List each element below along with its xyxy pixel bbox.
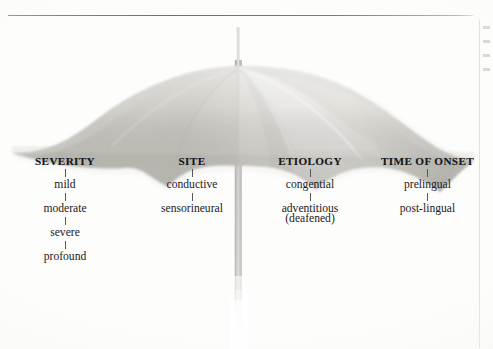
column-item-severity-mild: mild [0,178,130,191]
column-severity: SEVERITY mild moderate severe profound [0,155,130,263]
figure-page: SEVERITY mild moderate severe profound S… [0,0,493,349]
column-time-of-onset: TIME OF ONSET prelingual post-lingual [362,155,493,215]
column-item-onset-post-lingual: post-lingual [362,202,493,215]
column-item-onset-prelingual: prelingual [362,178,493,191]
column-item-site-conductive: conductive [128,178,256,191]
column-etiology: ETIOLOGY congential adventitious (deafen… [250,155,370,225]
column-item-etiology-deafened: (deafened) [250,212,370,225]
connector-tick [192,193,193,201]
connector-tick [65,241,66,249]
connector-tick [427,169,428,177]
connector-tick [65,217,66,225]
column-header-site: SITE [128,155,256,167]
column-item-severity-severe: severe [0,226,130,239]
connector-tick [427,193,428,201]
column-site: SITE conductive sensorineural [128,155,256,215]
connector-tick [310,193,311,201]
connector-tick [65,169,66,177]
connector-tick [65,193,66,201]
column-item-severity-profound: profound [0,250,130,263]
umbrella-ferrule [233,27,243,71]
column-header-time-of-onset: TIME OF ONSET [362,155,493,167]
column-item-severity-moderate: moderate [0,202,130,215]
column-item-etiology-congential: congential [250,178,370,191]
connector-tick [310,169,311,177]
column-header-etiology: ETIOLOGY [250,155,370,167]
connector-tick [192,169,193,177]
column-header-severity: SEVERITY [0,155,130,167]
column-item-site-sensorineural: sensorineural [128,202,256,215]
